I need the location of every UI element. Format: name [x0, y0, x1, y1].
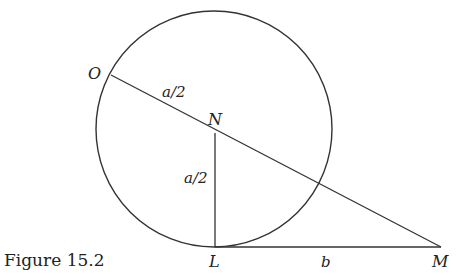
point-label-M: M — [431, 252, 449, 271]
diagram-canvas: O N L M a/2 a/2 b Figure 15.2 — [0, 0, 472, 275]
secant-line-OM — [111, 75, 441, 247]
point-label-L: L — [208, 252, 220, 271]
point-label-O: O — [88, 64, 101, 83]
figure-caption: Figure 15.2 — [4, 250, 105, 270]
segment-label-LM: b — [321, 253, 331, 271]
point-label-N: N — [207, 110, 223, 129]
segment-label-ON: a/2 — [162, 83, 186, 101]
segment-label-NL: a/2 — [184, 169, 208, 187]
